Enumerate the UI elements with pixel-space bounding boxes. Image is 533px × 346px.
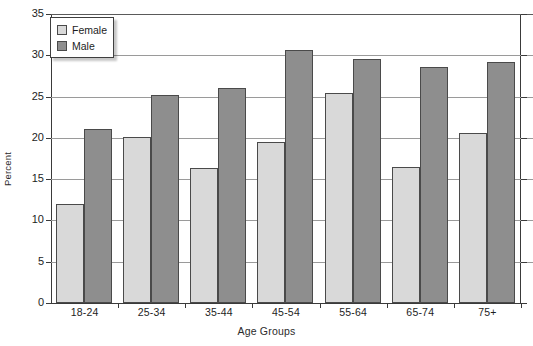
legend-swatch-male-icon: [57, 41, 67, 51]
x-tick-label-18-24: 18-24: [51, 306, 118, 318]
y-tick-label-20: 20: [6, 131, 44, 143]
legend-swatch-female-icon: [57, 25, 67, 35]
bar-male-35-44[interactable]: [218, 88, 246, 304]
plot-area: [51, 14, 521, 303]
y-tick-mark-0: [46, 303, 51, 304]
legend-item-female: Female: [57, 22, 113, 38]
bar-group-45-54: [252, 14, 319, 303]
bar-group-25-34: [118, 14, 185, 303]
bar-group-55-64: [320, 14, 387, 303]
x-axis-title: Age Groups: [0, 325, 533, 337]
y-tick-mark-right-30: [521, 55, 527, 56]
bar-male-75+[interactable]: [487, 62, 515, 303]
bar-male-55-64[interactable]: [353, 59, 381, 303]
bar-group-35-44: [185, 14, 252, 303]
legend-label-female: Female: [72, 24, 107, 36]
x-tick-label-45-54: 45-54: [252, 306, 319, 318]
y-tick-mark-right-25: [521, 97, 527, 98]
bar-female-35-44[interactable]: [190, 168, 218, 303]
bar-female-25-34[interactable]: [123, 137, 151, 303]
x-tick-label-75+: 75+: [454, 306, 521, 318]
x-tick-label-25-34: 25-34: [118, 306, 185, 318]
y-tick-mark-right-10: [521, 220, 527, 221]
y-tick-label-30: 30: [6, 48, 44, 60]
chart-legend: Female Male: [50, 17, 114, 58]
bar-female-18-24[interactable]: [56, 204, 84, 303]
bar-female-75+[interactable]: [459, 133, 487, 303]
x-tick-label-35-44: 35-44: [185, 306, 252, 318]
bar-group-65-74: [387, 14, 454, 303]
x-tick-mark-75+: [521, 303, 522, 308]
y-tick-mark-right-20: [521, 138, 527, 139]
bar-female-65-74[interactable]: [392, 167, 420, 303]
y-tick-label-5: 5: [6, 255, 44, 267]
x-tick-label-65-74: 65-74: [387, 306, 454, 318]
y-tick-label-35: 35: [6, 7, 44, 19]
y-tick-mark-right-15: [521, 179, 527, 180]
y-tick-mark-right-35: [521, 14, 527, 15]
bar-female-45-54[interactable]: [257, 142, 285, 303]
bar-chart: Percent Age Groups Female Male 051015202…: [0, 0, 533, 346]
y-axis-title: Percent: [2, 134, 13, 204]
x-tick-label-55-64: 55-64: [320, 306, 387, 318]
x-axis-line: [51, 303, 521, 304]
legend-item-male: Male: [57, 38, 113, 54]
y-tick-label-0: 0: [6, 296, 44, 308]
y-tick-label-10: 10: [6, 213, 44, 225]
y-tick-label-25: 25: [6, 90, 44, 102]
bar-male-65-74[interactable]: [420, 67, 448, 303]
bar-male-45-54[interactable]: [285, 50, 313, 303]
y-tick-mark-right-5: [521, 262, 527, 263]
legend-label-male: Male: [72, 40, 95, 52]
bar-female-55-64[interactable]: [325, 93, 353, 303]
bar-male-18-24[interactable]: [84, 129, 112, 303]
bar-male-25-34[interactable]: [151, 95, 179, 303]
bar-group-75+: [454, 14, 521, 303]
y-tick-label-15: 15: [6, 172, 44, 184]
